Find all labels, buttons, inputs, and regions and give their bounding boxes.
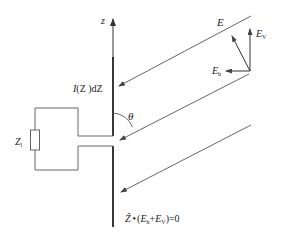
load-circuit: Zl: [15, 108, 113, 170]
Eh-label: Eh: [211, 65, 221, 77]
incident-ray-2-arrow-icon: [120, 74, 249, 140]
current-element-label: I(Z )dZ: [72, 83, 103, 95]
incident-rays: [119, 16, 251, 192]
lower-feed-wire: [35, 146, 113, 170]
incident-ray-3-arrow-icon: [121, 125, 251, 192]
angle-theta: θ: [113, 110, 134, 127]
E-vector-arrow-icon: [232, 36, 250, 71]
theta-label: θ: [128, 110, 134, 122]
boundary-condition-equation: Ẑ•(Eh+EV)=0: [125, 213, 180, 225]
svg-text:I(Z )dZ: I(Z )dZ: [72, 83, 103, 95]
upper-feed-wire: [35, 108, 113, 136]
current-expression: (Z )dZ: [76, 83, 102, 95]
z-axis: z: [100, 15, 113, 60]
field-E-label: E: [216, 16, 224, 28]
load-resistor-icon: [31, 130, 40, 150]
Ev-label: EV: [255, 28, 267, 40]
antenna-diagram: z I(Z )dZ Zl θ E EV: [0, 0, 282, 242]
z-axis-label: z: [100, 15, 105, 26]
field-vectors: EV Eh: [211, 28, 267, 77]
incident-ray-1-arrow-icon: [119, 16, 251, 86]
load-impedance-label: Zl: [15, 136, 23, 148]
